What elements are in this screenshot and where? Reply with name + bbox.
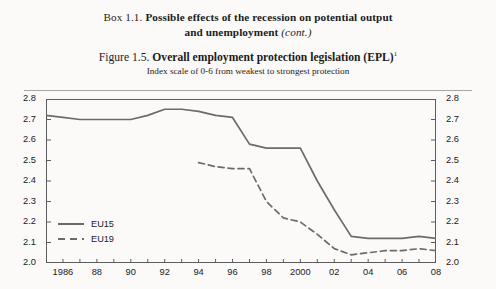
chart-area: 2.02.12.22.32.42.52.62.72.8 2.02.12.22.3… (46, 99, 436, 263)
y-tick-label-left-2.6: 2.6 (0, 134, 36, 144)
y-tick-label-right-2.4: 2.4 (446, 175, 486, 185)
y-tick-label-left-2.3: 2.3 (0, 196, 36, 206)
y-tick-label-right-2.2: 2.2 (446, 216, 486, 226)
y-tick-label-right-2.8: 2.8 (446, 93, 486, 103)
y-tick-label-left-2.8: 2.8 (0, 93, 36, 103)
y-tick-label-left-2.4: 2.4 (0, 175, 36, 185)
figure-heading: Figure 1.5. Overall employment protectio… (0, 47, 496, 65)
box-cont-note: (cont.) (281, 26, 311, 38)
y-tick-label-left-2.0: 2.0 (0, 257, 36, 267)
horizontal-rule (24, 90, 472, 91)
figure-subtitle: Index scale of 0-6 from weakest to stron… (0, 66, 496, 76)
y-tick-label-left-2.5: 2.5 (0, 155, 36, 165)
y-tick-label-right-2.5: 2.5 (446, 155, 486, 165)
legend-item-eu15: EU15 (58, 217, 114, 230)
solid-line-icon (58, 219, 84, 229)
figure-page: Box 1.1. Possible effects of the recessi… (0, 0, 496, 289)
y-tick-label-right-2.6: 2.6 (446, 134, 486, 144)
box-title-line1: Possible effects of the recession on pot… (145, 11, 392, 23)
y-tick-label-left-2.2: 2.2 (0, 216, 36, 226)
box-label: Box 1.1. (103, 11, 142, 23)
figure-title: Overall employment protection legislatio… (152, 51, 393, 64)
legend-label-eu19: EU19 (91, 234, 114, 244)
figure-label: Figure 1.5. (99, 51, 150, 64)
y-tick-label-right-2.0: 2.0 (446, 257, 486, 267)
y-tick-label-right-2.3: 2.3 (446, 196, 486, 206)
series-line-eu19 (199, 163, 436, 255)
box-heading: Box 1.1. Possible effects of the recessi… (0, 10, 496, 39)
legend-item-eu19: EU19 (58, 232, 114, 245)
y-tick-label-right-2.1: 2.1 (446, 237, 486, 247)
bleed-through-text (0, 276, 496, 289)
legend-label-eu15: EU15 (91, 219, 114, 229)
chart-legend: EU15 EU19 (58, 217, 114, 247)
y-tick-label-left-2.1: 2.1 (0, 237, 36, 247)
dashed-line-icon (58, 234, 84, 244)
y-tick-label-left-2.7: 2.7 (0, 114, 36, 124)
footnote-marker: 1 (394, 50, 398, 58)
box-title-line2: and unemployment (184, 26, 278, 38)
y-tick-label-right-2.7: 2.7 (446, 114, 486, 124)
